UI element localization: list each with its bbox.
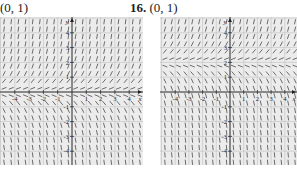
- slope-segment: [233, 138, 234, 143]
- slope-segment: [233, 86, 235, 91]
- slope-segment: [233, 34, 235, 39]
- slope-segment: [25, 49, 26, 54]
- slope-segment: [25, 152, 26, 157]
- slope-segment: [24, 71, 26, 76]
- slope-segment: [239, 49, 242, 53]
- slope-segment: [125, 138, 126, 143]
- slope-segment: [54, 138, 55, 143]
- slope-segment: [212, 108, 213, 113]
- slope-segment: [274, 101, 275, 106]
- slope-segment: [267, 19, 268, 24]
- slope-segment: [253, 19, 254, 24]
- slope-segment: [176, 65, 181, 67]
- slope-segment: [82, 49, 83, 54]
- y-tick-label: -4: [222, 147, 228, 154]
- slope-segment: [140, 152, 141, 157]
- slope-segment: [205, 19, 206, 24]
- slope-segment: [139, 130, 140, 135]
- slope-segment: [73, 95, 78, 97]
- slope-segment: [25, 19, 26, 24]
- slope-segment: [192, 152, 193, 157]
- slope-segment: [233, 145, 234, 150]
- slope-segment: [288, 115, 289, 120]
- slope-segment: [39, 130, 40, 135]
- slope-segment: [240, 108, 241, 113]
- slope-segment: [39, 41, 40, 46]
- slope-segment: [254, 130, 255, 135]
- slope-segment: [39, 49, 40, 54]
- x-tick-label: -4: [172, 95, 178, 102]
- slope-segment: [293, 72, 296, 76]
- slope-segment: [171, 79, 173, 84]
- slope-segment: [90, 19, 91, 24]
- slope-segment: [111, 56, 112, 61]
- slope-segment: [60, 115, 62, 120]
- slope-segment: [217, 65, 222, 67]
- slope-segment: [212, 42, 214, 47]
- slope-segment: [170, 72, 173, 76]
- slope-segment: [281, 123, 282, 128]
- slope-segment: [295, 145, 296, 150]
- slope-segment: [18, 138, 19, 143]
- slope-segment: [110, 64, 112, 69]
- slope-segment: [132, 41, 133, 46]
- slope-segment: [252, 49, 255, 53]
- slope-segment: [260, 130, 261, 135]
- slope-segment: [164, 27, 165, 32]
- slope-segment: [54, 34, 55, 39]
- slope-segment: [185, 115, 186, 120]
- slope-segment: [206, 130, 207, 135]
- slope-segment: [213, 130, 214, 135]
- slope-segment: [61, 41, 62, 46]
- slope-segment: [139, 41, 140, 46]
- slope-segment: [89, 152, 90, 157]
- slope-segment: [24, 108, 26, 113]
- slope-segment: [47, 160, 48, 165]
- y-tick-label: -2: [64, 118, 69, 125]
- slope-segment: [245, 72, 248, 76]
- slope-segment: [132, 49, 133, 54]
- slope-segment: [240, 152, 241, 157]
- slope-segment: [259, 49, 262, 53]
- slope-segment: [199, 108, 200, 113]
- slope-segment: [185, 130, 186, 135]
- slope-segment: [124, 108, 126, 113]
- slope-segment: [61, 123, 62, 128]
- slope-segment: [164, 34, 166, 39]
- slope-segment: [75, 27, 76, 32]
- slope-segment: [191, 49, 194, 53]
- slope-segment: [267, 145, 268, 150]
- slope-segment: [212, 34, 214, 39]
- slope-segment: [32, 160, 33, 165]
- slope-segment: [2, 101, 5, 105]
- slope-segment: [267, 101, 268, 106]
- slope-segment: [18, 27, 19, 32]
- slope-segment: [111, 130, 112, 135]
- slope-segment: [178, 34, 180, 39]
- slope-segment: [125, 49, 126, 54]
- slope-segment: [240, 93, 241, 98]
- slope-segment: [206, 123, 207, 128]
- y-axis-arrow-icon: [228, 18, 232, 22]
- slope-segment: [32, 145, 33, 150]
- slope-segment: [288, 101, 289, 106]
- slope-segment: [89, 108, 91, 113]
- y-tick-label: 1: [66, 73, 69, 80]
- slope-segment: [123, 87, 128, 89]
- y-tick-label: -2: [222, 118, 227, 125]
- slope-segment: [260, 27, 261, 32]
- slope-segment: [260, 79, 262, 84]
- slope-segment: [199, 19, 200, 24]
- slope-segment: [118, 19, 119, 24]
- slope-segment: [111, 27, 112, 32]
- slope-segment: [103, 56, 104, 61]
- slope-segment: [89, 64, 91, 69]
- slope-segment: [75, 160, 76, 165]
- slope-segment: [18, 123, 19, 128]
- y-tick-label: -3: [222, 133, 227, 140]
- slope-segment: [3, 49, 4, 54]
- slope-segment: [80, 87, 85, 89]
- slope-segment: [287, 79, 289, 84]
- slope-segment: [32, 27, 33, 32]
- y-tick-label: -3: [64, 133, 69, 140]
